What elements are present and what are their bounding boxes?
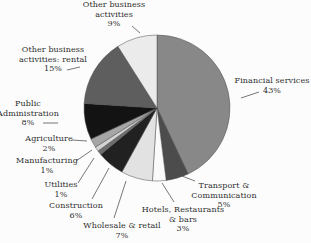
leader-line-3 xyxy=(114,181,126,218)
slice-label-4: Construction6% xyxy=(49,201,103,220)
slice-label-7: Agriculture2% xyxy=(25,134,73,153)
leader-line-7 xyxy=(72,140,87,141)
slice-label-3: Wholesale & retail7% xyxy=(83,221,160,240)
slice-label-6: Manufacturing1% xyxy=(16,156,78,175)
leader-line-2 xyxy=(162,183,174,202)
leader-line-5 xyxy=(78,158,94,183)
slice-label-8: PublicAdministration8% xyxy=(0,99,59,128)
pie-slices xyxy=(84,35,230,181)
slice-label-9: Other businessactivities: rental15% xyxy=(19,45,87,74)
slice-label-0: Financial services43% xyxy=(235,76,310,95)
slice-label-10: Other businessactivities9% xyxy=(83,0,145,29)
leader-line-4 xyxy=(92,168,109,199)
pie-chart-figure: Financial services43%Transport &Communic… xyxy=(0,0,311,243)
leader-line-6 xyxy=(76,150,92,161)
slice-label-5: Utilities1% xyxy=(44,180,77,199)
